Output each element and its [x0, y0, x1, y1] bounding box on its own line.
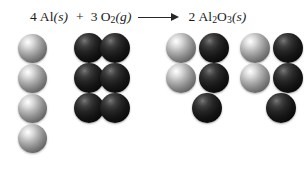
reactant-oxygen: 3O2(g): [91, 9, 132, 25]
chemical-equation: 4Al(s) + 3O2(g) 2Al2O3(s): [0, 6, 304, 28]
aluminum-atom: [18, 64, 47, 93]
product-aluminum-oxide: 2Al2O3(s): [189, 9, 247, 25]
oxygen-atom: [199, 33, 229, 63]
reaction-arrow-icon: [138, 11, 182, 23]
oxygen-atom: [273, 33, 303, 63]
aluminum-atom: [18, 124, 47, 153]
aluminum-atom: [240, 33, 270, 63]
product-coefficient: 2: [189, 9, 196, 24]
arrow-head: [171, 13, 179, 21]
oxygen-atom: [192, 93, 222, 123]
oxygen-atom: [273, 63, 303, 93]
aluminum-atom: [166, 33, 196, 63]
oxygen-atom: [199, 63, 229, 93]
reactant-aluminum-coefficient: 4: [30, 9, 37, 24]
reactant-oxygen-formula: O: [101, 9, 111, 24]
product-formula-o: O: [217, 9, 227, 24]
reactant-oxygen-coefficient: 3: [91, 9, 98, 24]
aluminum-oxide-unit: [240, 33, 304, 125]
aluminum-atom: [166, 63, 196, 93]
aluminum-atom: [18, 34, 47, 63]
plus-sign: +: [76, 9, 84, 25]
product-formula-al: Al: [198, 9, 212, 24]
oxygen-atom: [266, 93, 296, 123]
oxygen-molecule: [74, 93, 130, 123]
oxygen-atom: [100, 93, 130, 123]
oxygen-molecule: [74, 33, 130, 63]
reactant-aluminum-formula: Al: [40, 9, 54, 24]
reactant-oxygen-state: (g): [116, 9, 132, 24]
oxygen-molecule: [74, 63, 130, 93]
reactant-aluminum: 4Al(s): [30, 9, 68, 25]
aluminum-atom: [240, 63, 270, 93]
aluminum-oxide-unit: [166, 33, 230, 125]
product-state: (s): [232, 9, 247, 24]
reactant-aluminum-state: (s): [54, 9, 69, 24]
oxygen-atom: [100, 33, 130, 63]
aluminum-atom: [18, 94, 47, 123]
reaction-figure: 4Al(s) + 3O2(g) 2Al2O3(s): [0, 0, 304, 171]
oxygen-atom: [100, 63, 130, 93]
